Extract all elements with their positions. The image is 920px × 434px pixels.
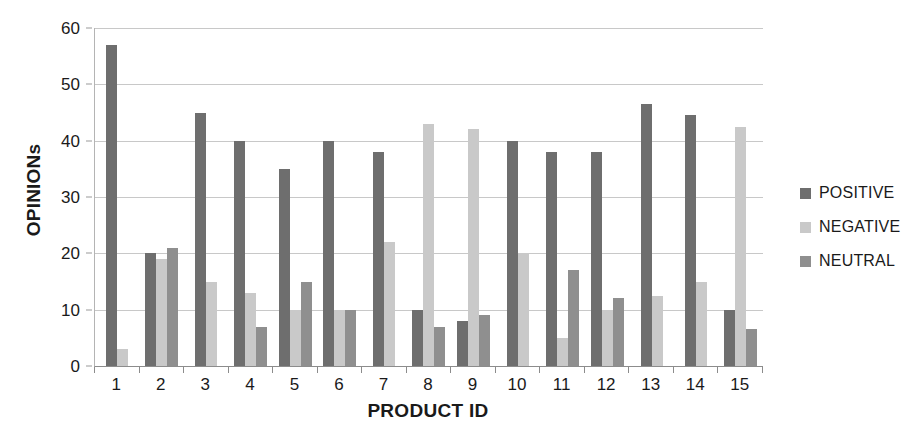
bar-negative	[206, 282, 217, 367]
bar-group	[273, 28, 318, 366]
x-axis-tick-mark	[539, 367, 540, 373]
bar-group	[540, 28, 585, 366]
x-axis-tick-label: 5	[290, 375, 299, 395]
x-axis-tick-mark	[94, 367, 95, 373]
legend-item-neutral[interactable]: NEUTRAL	[800, 252, 900, 270]
y-axis-tick-label: 10	[61, 301, 80, 318]
x-axis-tick-mark	[673, 367, 674, 373]
bar-negative	[518, 253, 529, 366]
y-axis-title-text: OPINIONs	[23, 144, 45, 236]
y-axis-tick-mark	[86, 366, 92, 367]
x-axis-tick-mark	[495, 367, 496, 373]
x-axis-title: PRODUCT ID	[94, 400, 762, 422]
bar-positive	[279, 169, 290, 366]
x-axis-tick-mark	[584, 367, 585, 373]
legend-item-negative[interactable]: NEGATIVE	[800, 218, 900, 236]
y-axis-tick-mark	[86, 84, 92, 85]
legend-swatch-icon	[800, 188, 811, 199]
legend-label: NEGATIVE	[819, 218, 900, 236]
bar-positive	[323, 141, 334, 366]
bar-positive	[373, 152, 384, 366]
bar-positive	[724, 310, 735, 366]
x-axis-tick-label: 9	[468, 375, 477, 395]
bar-negative	[557, 338, 568, 366]
bar-group	[407, 28, 452, 366]
bar-group	[674, 28, 719, 366]
y-axis-tick-label: 40	[61, 132, 80, 149]
bar-neutral	[434, 327, 445, 366]
bar-group	[184, 28, 229, 366]
bar-negative	[602, 310, 613, 366]
x-axis-tick-mark	[228, 367, 229, 373]
bar-negative	[696, 282, 707, 367]
x-axis-tick-mark	[717, 367, 718, 373]
bar-neutral	[479, 315, 490, 366]
bar-negative	[735, 127, 746, 366]
x-axis-tick-mark	[450, 367, 451, 373]
x-axis-tick-mark	[361, 367, 362, 373]
bar-negative	[156, 259, 167, 366]
x-axis-tick-mark	[183, 367, 184, 373]
bar-group	[362, 28, 407, 366]
x-axis-tick-label: 7	[379, 375, 388, 395]
plot-area	[94, 28, 763, 367]
x-axis-tick-label: 8	[423, 375, 432, 395]
bar-positive	[234, 141, 245, 366]
y-axis-tick-label: 30	[61, 189, 80, 206]
y-axis-tick-label: 20	[61, 245, 80, 262]
bar-negative	[334, 310, 345, 366]
bar-neutral	[301, 282, 312, 367]
y-axis-tick-mark	[86, 28, 92, 29]
bar-positive	[591, 152, 602, 366]
bar-positive	[641, 104, 652, 366]
x-axis-tick-mark	[628, 367, 629, 373]
bar-group	[140, 28, 185, 366]
bar-group	[496, 28, 541, 366]
bar-negative	[468, 129, 479, 366]
x-axis-tick-label: 10	[508, 375, 527, 395]
bar-group	[451, 28, 496, 366]
bar-neutral	[568, 270, 579, 366]
y-axis-tick-mark	[86, 140, 92, 141]
legend-swatch-icon	[800, 256, 811, 267]
x-axis-tick-label: 1	[112, 375, 121, 395]
bar-neutral	[613, 298, 624, 366]
legend-item-positive[interactable]: POSITIVE	[800, 184, 900, 202]
bar-negative	[117, 349, 128, 366]
x-axis-tick-mark	[406, 367, 407, 373]
bar-positive	[195, 113, 206, 367]
y-axis-tick-label: 50	[61, 76, 80, 93]
x-axis-tick-label: 3	[201, 375, 210, 395]
x-axis-tick-mark	[762, 367, 763, 373]
x-axis-tick-mark	[272, 367, 273, 373]
bars-layer	[95, 28, 763, 366]
bar-positive	[145, 253, 156, 366]
x-axis-tick-label: 2	[156, 375, 165, 395]
x-axis-tick-label: 11	[553, 375, 571, 395]
bar-positive	[685, 115, 696, 366]
bar-positive	[457, 321, 468, 366]
bar-group	[718, 28, 763, 366]
bar-positive	[106, 45, 117, 366]
bar-positive	[507, 141, 518, 366]
x-axis-tick-label: 15	[730, 375, 749, 395]
bar-negative	[652, 296, 663, 366]
y-axis-tick-labels: 0102030405060	[44, 28, 88, 366]
y-axis-tick-label: 60	[61, 20, 80, 37]
y-axis-tick-mark	[86, 309, 92, 310]
bar-group	[318, 28, 363, 366]
x-axis-tick-labels: 123456789101112131415	[94, 367, 762, 401]
legend-swatch-icon	[800, 222, 811, 233]
bar-group	[629, 28, 674, 366]
x-axis-tick-label: 6	[334, 375, 343, 395]
y-axis-tick-mark	[86, 253, 92, 254]
bar-group	[95, 28, 140, 366]
bar-chart: OPINIONs 0102030405060 12345678910111213…	[0, 0, 920, 434]
x-axis-tick-label: 4	[245, 375, 254, 395]
bar-positive	[546, 152, 557, 366]
bar-neutral	[256, 327, 267, 366]
bar-negative	[290, 310, 301, 366]
chart-legend: POSITIVENEGATIVENEUTRAL	[800, 184, 900, 270]
bar-neutral	[167, 248, 178, 366]
legend-label: POSITIVE	[819, 184, 894, 202]
